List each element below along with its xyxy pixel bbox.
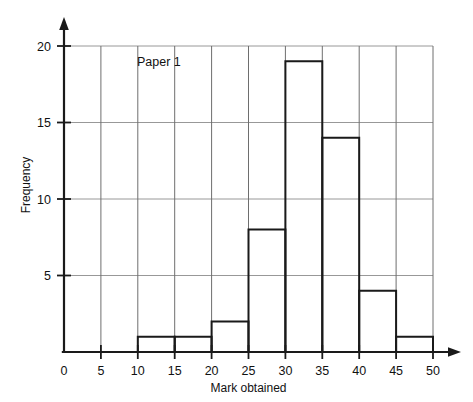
bar-10-15 — [138, 337, 175, 352]
xtick-label-25: 25 — [242, 364, 256, 378]
xtick-label-40: 40 — [352, 364, 366, 378]
ytick-label-20: 20 — [37, 40, 51, 54]
ytick-label-15: 15 — [37, 116, 51, 130]
xtick-label-30: 30 — [278, 364, 292, 378]
y-axis-arrow — [59, 17, 69, 30]
ytick-label-10: 10 — [37, 193, 51, 207]
bar-20-25 — [212, 321, 249, 352]
bar-25-30 — [249, 230, 286, 352]
histogram-chart: 20 15 10 5 0 5 10 15 20 25 30 35 40 45 5… — [0, 0, 473, 402]
bar-15-20 — [175, 337, 212, 352]
bar-45-50 — [396, 337, 433, 352]
xtick-label-35: 35 — [315, 364, 329, 378]
axes — [59, 17, 461, 357]
bar-40-45 — [359, 291, 396, 352]
xtick-label-50: 50 — [426, 364, 440, 378]
x-tick-labels: 0 5 10 15 20 25 30 35 40 45 50 — [61, 364, 440, 378]
x-axis-arrow — [448, 347, 461, 357]
xtick-label-10: 10 — [131, 364, 145, 378]
x-axis-title: Mark obtained — [210, 381, 286, 395]
xtick-label-0: 0 — [61, 364, 68, 378]
bar-35-40 — [322, 138, 359, 352]
xtick-label-45: 45 — [389, 364, 403, 378]
xtick-label-20: 20 — [205, 364, 219, 378]
histogram-bars — [138, 61, 433, 352]
bar-30-35 — [285, 61, 322, 352]
y-tick-labels: 20 15 10 5 — [37, 40, 51, 284]
xtick-label-15: 15 — [168, 364, 182, 378]
xtick-label-5: 5 — [97, 364, 104, 378]
series-annotation-paper-1: Paper 1 — [137, 55, 181, 69]
y-axis-title: Frequency — [19, 157, 33, 214]
chart-svg: 20 15 10 5 0 5 10 15 20 25 30 35 40 45 5… — [0, 0, 473, 402]
ytick-label-5: 5 — [44, 269, 51, 283]
